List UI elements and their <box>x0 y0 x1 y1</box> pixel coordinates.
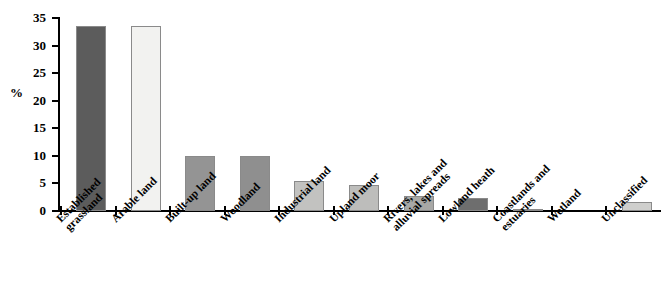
y-axis-tick <box>52 155 58 157</box>
y-axis-tick-label: 0 <box>0 204 46 217</box>
y-axis-tick-label: 20 <box>0 94 46 107</box>
y-axis-tick-label: 25 <box>0 66 46 79</box>
bar-chart: % 05101520253035 EstablishedgrasslandAra… <box>0 0 664 302</box>
y-axis-tick <box>52 17 58 19</box>
y-axis-tick-label: 5 <box>0 176 46 189</box>
y-axis-tick-label: 15 <box>0 121 46 134</box>
y-axis-tick <box>52 182 58 184</box>
y-axis-tick-label: 30 <box>0 39 46 52</box>
y-axis-tick <box>52 45 58 47</box>
y-axis-tick <box>52 72 58 74</box>
y-axis-tick <box>52 127 58 129</box>
y-axis-tick <box>52 100 58 102</box>
y-axis-tick-label: 35 <box>0 11 46 24</box>
y-axis-tick-label: 10 <box>0 149 46 162</box>
